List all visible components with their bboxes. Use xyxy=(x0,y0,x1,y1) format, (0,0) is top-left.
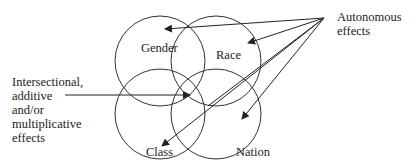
race-label: Race xyxy=(216,48,241,62)
class-label: Class xyxy=(146,145,173,159)
arrow-to-race xyxy=(248,18,324,43)
autonomous-effects-label: Autonomous effects xyxy=(337,10,402,38)
arrow-to-nation xyxy=(242,18,324,119)
gender-circle xyxy=(115,16,205,106)
gender-label: Gender xyxy=(141,41,178,55)
nation-label: Nation xyxy=(236,145,270,159)
intersectional-effects-label: Intersectional, additive and/or multipli… xyxy=(12,75,83,145)
arrow-to-gender xyxy=(165,18,324,29)
arrow-to-class xyxy=(162,18,324,146)
arrow-to-intersection xyxy=(208,18,324,106)
